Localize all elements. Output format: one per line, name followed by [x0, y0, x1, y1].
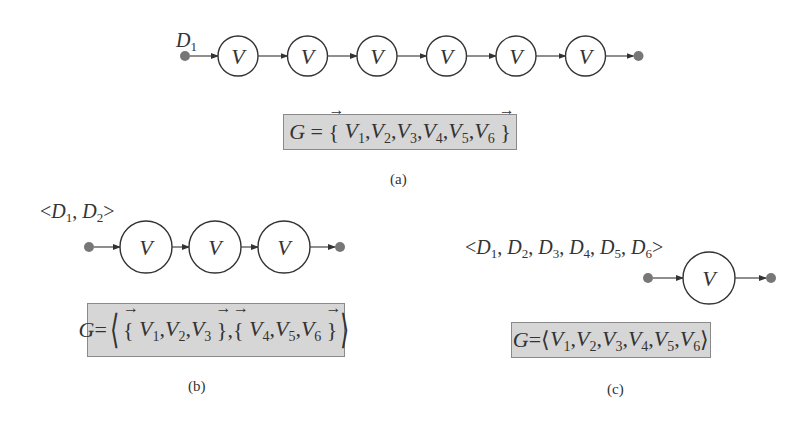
group1-vars: V1,V2,V3	[139, 316, 211, 345]
panel-b-formula: G=⟨{ V1,V2,V3 },{ V4,V5,V6 }⟩	[87, 303, 345, 357]
formula-var-sub: 5	[462, 131, 469, 146]
formula-var: V	[301, 316, 314, 341]
panel-c-formula: G=⟨V1,V2,V3,V4,V5,V6⟩	[511, 322, 711, 358]
formula-eq: =	[95, 317, 107, 343]
panel-c-chain: <D1, D2, D3, D4, D5, D6> V	[465, 236, 776, 304]
v-node: V	[288, 36, 328, 76]
v-node: V	[189, 221, 241, 273]
panel-a-formula: G = { V1,V2,V3,V4,V5,V6 }	[283, 114, 517, 150]
formula-var-sub: 3	[204, 329, 211, 344]
group2-open: {	[233, 317, 244, 343]
v-node: V	[496, 36, 536, 76]
group2-close: }	[327, 317, 338, 343]
formula-eq: =	[529, 327, 541, 353]
v-node: V	[120, 221, 172, 273]
formula-var-sub: 2	[589, 339, 596, 354]
sink-dot	[335, 242, 345, 252]
formula-var-sub: 6	[693, 339, 700, 354]
formula-var-sub: 1	[564, 339, 571, 354]
right-angle: ⟩	[341, 310, 351, 350]
formula-var: V	[275, 316, 288, 341]
left-angle: ⟨	[110, 310, 120, 350]
panel-b-input-label: <D1, D2>	[40, 200, 114, 225]
panel-b-chain: <D1, D2> VVV	[40, 200, 345, 273]
formula-var: V	[422, 118, 435, 143]
formula-var-sub: 1	[358, 131, 365, 146]
formula-var: V	[550, 326, 563, 351]
formula-var: V	[680, 326, 693, 351]
v-node: V	[258, 221, 310, 273]
formula-eq: =	[311, 119, 323, 145]
formula-var: V	[628, 326, 641, 351]
formula-close-brace: }	[500, 119, 511, 145]
formula-var: V	[249, 316, 262, 341]
formula-lhs: G	[79, 317, 95, 343]
formula-var-sub: 3	[615, 339, 622, 354]
v-node: V	[218, 36, 258, 76]
formula-var: V	[474, 118, 487, 143]
v-node: V	[566, 36, 606, 76]
pipeline-diagram: D1 VVVVVV <D1, D2> VVV <D1, D2, D3, D4, …	[0, 0, 812, 422]
formula-var: V	[345, 118, 358, 143]
formula-var-sub: 2	[384, 131, 391, 146]
panel-b-source-dot	[84, 242, 94, 252]
formula-var-sub: 4	[436, 131, 443, 146]
sink-dot	[634, 51, 644, 61]
panel-c-input-label: <D1, D2, D3, D4, D5, D6>	[465, 236, 663, 261]
formula-var-sub: 3	[410, 131, 417, 146]
caption-a: (a)	[390, 171, 407, 188]
formula-var: V	[602, 326, 615, 351]
formula-var-sub: 6	[488, 131, 495, 146]
v-node: V	[357, 36, 397, 76]
formula-var-sub: 5	[667, 339, 674, 354]
formula-var: V	[448, 118, 461, 143]
panel-c-source-dot	[643, 273, 653, 283]
panel-a-source-dot	[180, 51, 190, 61]
formula-var-sub: 2	[178, 329, 185, 344]
formula-vars: V1,V2,V3,V4,V5,V6	[345, 118, 495, 147]
formula-var: V	[654, 326, 667, 351]
v-node: V	[683, 252, 735, 304]
formula-lhs: G	[289, 119, 305, 145]
formula-var-sub: 4	[641, 339, 648, 354]
right-angle: ⟩	[700, 327, 709, 353]
formula-var-sub: 5	[288, 329, 295, 344]
formula-var: V	[396, 118, 409, 143]
caption-c: (c)	[607, 381, 624, 398]
formula-open-brace: {	[328, 119, 339, 145]
caption-b: (b)	[188, 378, 206, 395]
left-angle: ⟨	[541, 327, 550, 353]
formula-var-sub: 4	[262, 329, 269, 344]
sink-dot	[766, 273, 776, 283]
group2-vars: V4,V5,V6	[249, 316, 321, 345]
formula-var: V	[371, 118, 384, 143]
formula-vars: V1,V2,V3,V4,V5,V6	[550, 326, 700, 355]
v-node: V	[427, 36, 467, 76]
formula-var: V	[165, 316, 178, 341]
formula-lhs: G	[513, 327, 529, 353]
formula-var: V	[139, 316, 152, 341]
formula-var-sub: 6	[314, 329, 321, 344]
panel-a-chain: D1 VVVVVV	[175, 29, 644, 76]
formula-var: V	[191, 316, 204, 341]
group1-open: {	[123, 317, 134, 343]
panel-a-input-label: D1	[175, 29, 197, 54]
formula-var-sub: 1	[152, 329, 159, 344]
group1-close: }	[217, 317, 228, 343]
formula-var: V	[576, 326, 589, 351]
